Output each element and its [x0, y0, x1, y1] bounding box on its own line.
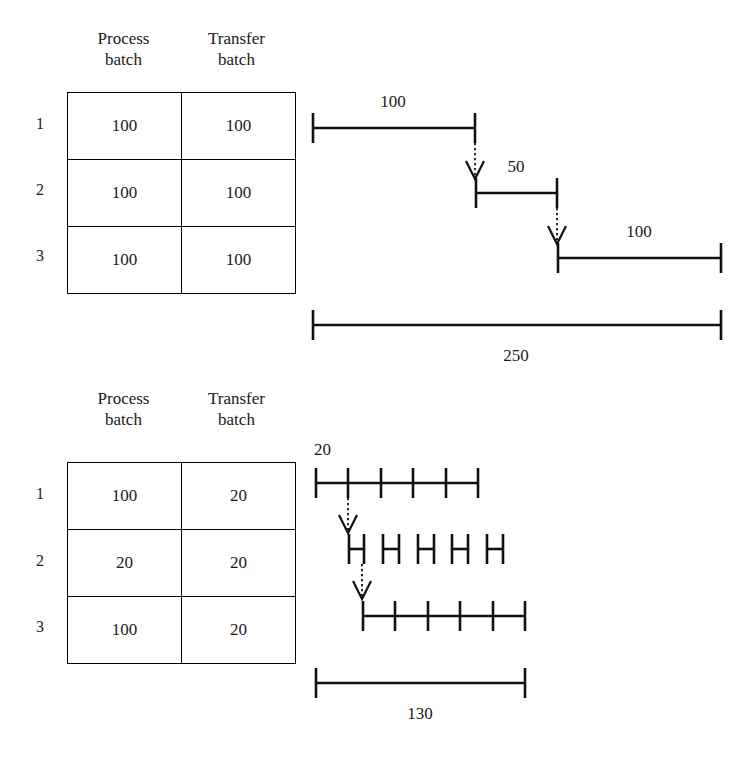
schedule-diagram-small-batch: 20: [300, 435, 600, 735]
dependency-arrow-1: [339, 498, 357, 533]
cell-transfer-batch-3: 20: [182, 597, 296, 664]
cell-transfer-batch-1: 20: [182, 463, 296, 530]
column-header-process-line2: batch: [67, 409, 180, 430]
row-label-1: 1: [30, 485, 50, 503]
operation-label-2: 50: [508, 157, 525, 176]
operation-bar-1: [315, 468, 478, 498]
table-column-headers: Process batch Transfer batch: [67, 28, 293, 70]
schedule-diagram-large-batch: 100 50: [300, 85, 740, 370]
column-header-process-line2: batch: [67, 49, 180, 70]
column-header-transfer-line1: Transfer: [180, 28, 293, 49]
table-row: 100 20: [68, 597, 296, 664]
panel-small-transfer-batch: Process batch Transfer batch 1 2 3 100 2…: [0, 375, 753, 764]
dependency-arrow-2: [548, 208, 566, 244]
batch-table: 100 20 20 20 100 20: [67, 462, 296, 664]
row-label-3: 3: [30, 618, 50, 636]
table-row: 100 100: [68, 227, 296, 294]
column-header-transfer-line2: batch: [180, 49, 293, 70]
total-span-bar: 130: [315, 668, 525, 723]
operation-bar-3: 100: [557, 222, 721, 273]
cell-transfer-batch-1: 100: [182, 93, 296, 160]
panel-large-transfer-batch: Process batch Transfer batch 1 2 3 100 1…: [0, 0, 753, 375]
table-row: 100 100: [68, 160, 296, 227]
total-span-label: 250: [503, 346, 529, 365]
column-header-transfer-batch: Transfer batch: [180, 388, 293, 430]
batch-table: 100 100 100 100 100 100: [67, 92, 296, 294]
operation-bar-1: 100: [312, 92, 475, 143]
dependency-arrow-2: [353, 564, 371, 599]
cell-process-batch-1: 100: [68, 93, 182, 160]
table-row: 20 20: [68, 530, 296, 597]
dependency-arrow-1: [466, 143, 484, 179]
figure-container: Process batch Transfer batch 1 2 3 100 1…: [0, 0, 753, 764]
cell-process-batch-3: 100: [68, 597, 182, 664]
total-span-bar: 250: [312, 310, 721, 365]
row-label-1: 1: [30, 115, 50, 133]
operation-bar-2: [348, 534, 503, 564]
cell-transfer-batch-3: 100: [182, 227, 296, 294]
row-label-2: 2: [30, 181, 50, 199]
column-header-transfer-batch: Transfer batch: [180, 28, 293, 70]
column-header-process-line1: Process: [67, 388, 180, 409]
cell-transfer-batch-2: 20: [182, 530, 296, 597]
column-header-transfer-line2: batch: [180, 409, 293, 430]
cell-process-batch-1: 100: [68, 463, 182, 530]
column-header-process-line1: Process: [67, 28, 180, 49]
transfer-batch-label: 20: [314, 440, 331, 459]
cell-process-batch-2: 20: [68, 530, 182, 597]
operation-bar-3: [362, 601, 525, 631]
column-header-transfer-line1: Transfer: [180, 388, 293, 409]
cell-transfer-batch-2: 100: [182, 160, 296, 227]
table-row: 100 100: [68, 93, 296, 160]
row-label-3: 3: [30, 247, 50, 265]
column-header-process-batch: Process batch: [67, 388, 180, 430]
column-header-process-batch: Process batch: [67, 28, 180, 70]
operation-bar-2: 50: [475, 157, 557, 208]
table-column-headers: Process batch Transfer batch: [67, 388, 293, 430]
table-row: 100 20: [68, 463, 296, 530]
cell-process-batch-2: 100: [68, 160, 182, 227]
total-span-label: 130: [407, 704, 433, 723]
row-label-2: 2: [30, 552, 50, 570]
cell-process-batch-3: 100: [68, 227, 182, 294]
operation-label-3: 100: [626, 222, 652, 241]
operation-label-1: 100: [380, 92, 406, 111]
